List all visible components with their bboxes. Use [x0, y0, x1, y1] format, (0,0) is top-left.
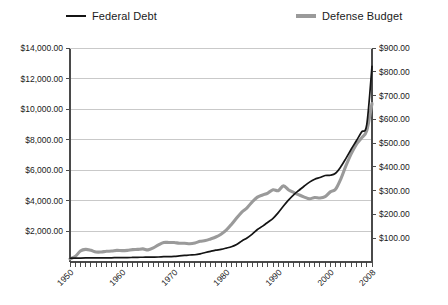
left-axis-tick-label: $12,000.00: [20, 74, 63, 84]
chart-plot-area: $2,000.00$4,000.00$6,000.00$8,000.00$10,…: [0, 0, 448, 305]
left-axis-tick-label: $8,000.00: [25, 135, 63, 145]
series-line-federal-debt: [70, 66, 372, 258]
right-axis-tick-label: $500.00: [379, 138, 410, 148]
right-axis-tick-label: $800.00: [379, 67, 410, 77]
right-axis-tick-label: $400.00: [379, 162, 410, 172]
chart-left-axis-labels: $2,000.00$4,000.00$6,000.00$8,000.00$10,…: [20, 43, 70, 236]
right-axis-tick-label: $900.00: [379, 43, 410, 53]
x-axis-tick-label: 1970: [159, 267, 180, 288]
x-axis-tick-label: 1950: [55, 267, 76, 288]
x-axis-tick-label: 1990: [263, 267, 284, 288]
left-axis-tick-label: $2,000.00: [25, 226, 63, 236]
x-axis-tick-label: 2000: [315, 267, 336, 288]
left-axis-tick-label: $4,000.00: [25, 196, 63, 206]
chart-gridlines: [70, 48, 372, 231]
chart-container: Federal Debt Defense Budget $2,000.00$4,…: [0, 0, 448, 305]
chart-right-axis-labels: $100.00$200.00$300.00$400.00$500.00$600.…: [372, 43, 410, 243]
right-axis-tick-label: $300.00: [379, 186, 410, 196]
left-axis-tick-label: $10,000.00: [20, 104, 63, 114]
chart-axis-lines: [70, 48, 372, 262]
left-axis-tick-label: $6,000.00: [25, 165, 63, 175]
chart-series-layer: [70, 66, 372, 259]
x-axis-tick-label: 1960: [107, 267, 128, 288]
chart-x-tickmarks: [70, 262, 372, 267]
right-axis-tick-label: $700.00: [379, 91, 410, 101]
right-axis-tick-label: $200.00: [379, 209, 410, 219]
series-line-defense-budget: [70, 104, 372, 259]
left-axis-tick-label: $14,000.00: [20, 43, 63, 53]
right-axis-tick-label: $600.00: [379, 114, 410, 124]
x-axis-tick-label: 1980: [211, 267, 232, 288]
x-axis-tick-label: 2008: [357, 267, 378, 288]
right-axis-tick-label: $100.00: [379, 233, 410, 243]
chart-x-axis-labels: 1950196019701980199020002008: [55, 267, 378, 288]
